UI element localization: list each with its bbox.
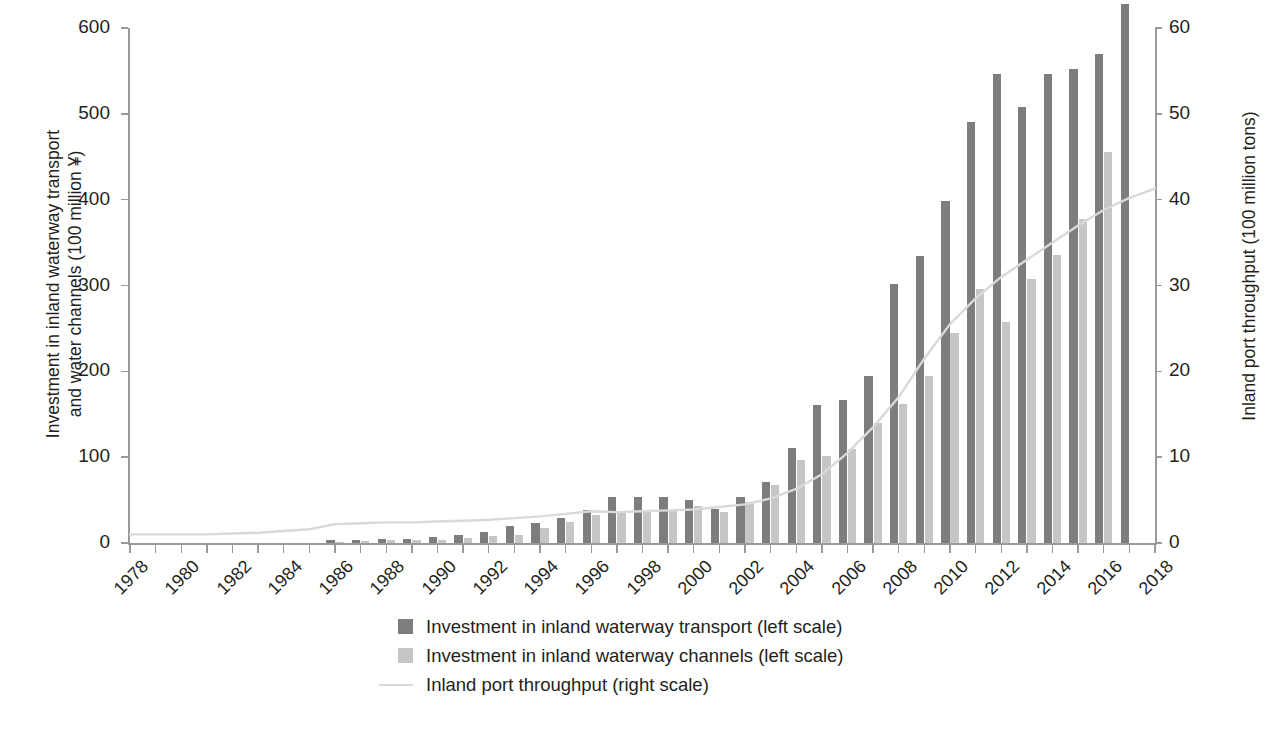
y-axis-left-tick <box>121 285 128 287</box>
x-axis-tick <box>821 544 822 553</box>
x-axis-tick <box>411 544 412 553</box>
x-axis-tick-label: 1996 <box>557 556 614 613</box>
chart-figure: Investment in inland waterway transport … <box>0 0 1269 741</box>
x-axis-tick-label: 2014 <box>1018 556 1075 613</box>
x-axis-tick <box>872 544 873 553</box>
x-axis-tick-label: 1986 <box>301 556 358 613</box>
chart-legend: Investment in inland waterway transport … <box>398 612 1098 699</box>
y-axis-left-tick-label: 0 <box>40 531 110 553</box>
x-axis-tick <box>155 544 156 553</box>
x-axis-tick <box>206 544 207 553</box>
x-axis-tick-label: 2010 <box>916 556 973 613</box>
x-axis-tick-label: 1988 <box>352 556 409 613</box>
y-axis-left-tick-label: 400 <box>40 188 110 210</box>
x-axis-tick <box>257 544 258 553</box>
x-axis-tick <box>181 544 182 553</box>
x-axis-tick-label: 1982 <box>198 556 255 613</box>
line-series-throughput <box>130 28 1155 543</box>
x-axis-tick <box>1077 544 1078 553</box>
x-axis-tick <box>975 544 976 553</box>
x-axis-tick-label: 1994 <box>506 556 563 613</box>
x-axis-tick <box>232 544 233 553</box>
x-axis-tick <box>539 544 540 553</box>
y-axis-right-tick <box>1155 542 1162 544</box>
x-axis-tick <box>898 544 899 553</box>
x-axis-tick <box>667 544 668 553</box>
x-axis-tick <box>924 544 925 553</box>
y-axis-left-tick-label: 500 <box>40 102 110 124</box>
legend-line-swatch-icon <box>379 677 413 692</box>
x-axis-tick <box>129 544 130 553</box>
legend-item-label: Inland port throughput (right scale) <box>426 674 709 696</box>
y-axis-left-tick-label: 200 <box>40 359 110 381</box>
x-axis-tick <box>1129 544 1130 553</box>
x-axis-tick <box>1001 544 1002 553</box>
x-axis-tick-label: 1978 <box>96 556 153 613</box>
x-axis-tick <box>949 544 950 553</box>
y-axis-right-tick <box>1155 27 1162 29</box>
legend-item-label: Investment in inland waterway transport … <box>426 616 842 638</box>
x-axis-tick-label: 2002 <box>711 556 768 613</box>
y-axis-right-tick <box>1155 199 1162 201</box>
y-axis-right-tick-label: 60 <box>1169 16 1239 38</box>
x-axis-tick <box>744 544 745 553</box>
x-axis-tick <box>847 544 848 553</box>
x-axis-tick <box>770 544 771 553</box>
y-axis-right-tick <box>1155 285 1162 287</box>
x-axis-tick <box>386 544 387 553</box>
y-axis-right-tick-label: 20 <box>1169 359 1239 381</box>
y-axis-right-tick <box>1155 113 1162 115</box>
x-axis-tick <box>1026 544 1027 553</box>
y-axis-left-tick <box>121 199 128 201</box>
x-axis-tick <box>693 544 694 553</box>
x-axis-tick-label: 1980 <box>147 556 204 613</box>
y-axis-left-tick-label: 600 <box>40 16 110 38</box>
x-axis-tick-label: 1992 <box>454 556 511 613</box>
y-axis-right-title: Inland port throughput (100 million tons… <box>1238 6 1260 526</box>
x-axis-tick-label: 1984 <box>249 556 306 613</box>
y-axis-right-tick <box>1155 456 1162 458</box>
legend-item[interactable]: Investment in inland waterway channels (… <box>398 641 1098 670</box>
y-axis-left-tick <box>121 27 128 29</box>
y-axis-right-tick-label: 0 <box>1169 531 1239 553</box>
x-axis-tick <box>642 544 643 553</box>
x-axis-tick <box>360 544 361 553</box>
x-axis-tick-label: 2008 <box>864 556 921 613</box>
x-axis-tick <box>719 544 720 553</box>
x-axis-tick <box>334 544 335 553</box>
legend-color-swatch-icon <box>398 648 413 663</box>
legend-item[interactable]: Inland port throughput (right scale) <box>398 670 1098 699</box>
x-axis-tick-label: 1990 <box>403 556 460 613</box>
x-axis-tick-label: 2000 <box>659 556 716 613</box>
x-axis-tick <box>616 544 617 553</box>
x-axis-tick <box>283 544 284 553</box>
x-axis-tick <box>309 544 310 553</box>
x-axis-tick <box>796 544 797 553</box>
y-axis-right-tick-label: 30 <box>1169 274 1239 296</box>
y-axis-left-tick-label: 300 <box>40 274 110 296</box>
x-axis-tick <box>591 544 592 553</box>
x-axis-tick-label: 2006 <box>813 556 870 613</box>
x-axis-tick-label: 2012 <box>967 556 1024 613</box>
y-axis-left-tick-label: 100 <box>40 445 110 467</box>
legend-item-label: Investment in inland waterway channels (… <box>426 645 843 667</box>
x-axis-tick <box>488 544 489 553</box>
x-axis-tick <box>565 544 566 553</box>
legend-item[interactable]: Investment in inland waterway transport … <box>398 612 1098 641</box>
x-axis-tick-label: 2018 <box>1121 556 1178 613</box>
y-axis-right-tick-label: 50 <box>1169 102 1239 124</box>
y-axis-right-tick-label: 10 <box>1169 445 1239 467</box>
x-axis-tick <box>437 544 438 553</box>
plot-area: 0100200300400500600 0102030405060 197819… <box>130 28 1155 543</box>
x-axis-tick <box>1154 544 1155 553</box>
y-axis-left-tick <box>121 113 128 115</box>
y-axis-left-tick <box>121 456 128 458</box>
x-axis-tick-label: 2004 <box>762 556 819 613</box>
y-axis-left-tick <box>121 542 128 544</box>
y-axis-right-tick <box>1155 371 1162 373</box>
x-axis-tick <box>1052 544 1053 553</box>
x-axis-tick <box>1103 544 1104 553</box>
y-axis-left-tick <box>121 371 128 373</box>
x-axis-tick <box>462 544 463 553</box>
x-axis-tick-label: 2016 <box>1069 556 1126 613</box>
